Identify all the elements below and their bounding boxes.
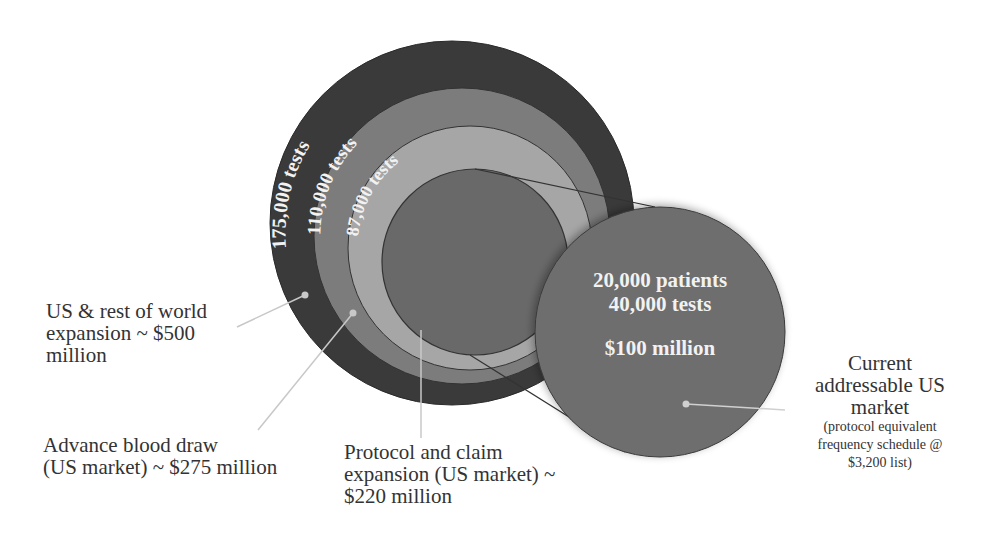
callout-line: million <box>46 344 207 366</box>
callout-us-rest-of-world: US & rest of world expansion ~ $500 mill… <box>46 300 207 366</box>
callout-current-market: Current addressable US market (protocol … <box>790 352 970 472</box>
callout-protocol-claim: Protocol and claim expansion (US market)… <box>344 441 555 507</box>
callout-line: US & rest of world <box>46 300 207 322</box>
callout-line: Current <box>790 352 970 374</box>
callout-advance-blood-draw: Advance blood draw (US market) ~ $275 mi… <box>43 434 277 478</box>
callout-line: expansion (US market) ~ <box>344 463 555 485</box>
current-market-stats: 20,000 patients 40,000 tests $100 millio… <box>560 268 760 360</box>
callout-line: Advance blood draw <box>43 434 277 456</box>
market-value: $100 million <box>560 336 760 360</box>
callout-line: $220 million <box>344 485 555 507</box>
callout-line: addressable US <box>790 374 970 396</box>
callout-note-line: frequency schedule @ <box>790 436 970 454</box>
leader-dot-us-rest-of-world <box>302 292 309 299</box>
callout-note-line: $3,200 list) <box>790 454 970 472</box>
callout-line: market <box>790 396 970 418</box>
leader-dot-advance-blood-draw <box>350 310 357 317</box>
callout-line: Protocol and claim <box>344 441 555 463</box>
patients-count: 20,000 patients <box>560 268 760 292</box>
callout-note-line: (protocol equivalent <box>790 418 970 436</box>
leader-dot-current-market <box>683 401 690 408</box>
callout-line: expansion ~ $500 <box>46 322 207 344</box>
callout-line: (US market) ~ $275 million <box>43 456 277 478</box>
tests-count: 40,000 tests <box>560 292 760 316</box>
